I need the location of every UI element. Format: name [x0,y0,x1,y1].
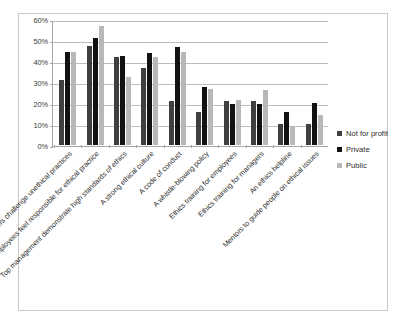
bar [59,80,64,145]
chart-figure: 60%50%40%30%20%10%0% Managers challenge … [0,0,406,328]
bar [93,38,98,145]
y-tickmark [50,42,53,43]
bar [290,127,295,145]
bar [141,68,146,145]
y-axis-labels: 60%50%40%30%20%10%0% [19,21,50,147]
legend-item: Not for profit [337,129,393,138]
bar [306,124,311,145]
y-tick-label: 60% [34,17,49,25]
bar [224,101,229,145]
bar [71,52,76,145]
bar [126,77,131,145]
bar [114,57,119,145]
plot-area [52,21,328,147]
bar [87,46,92,145]
bar-group [273,21,300,145]
y-tick-label: 10% [34,122,49,130]
bar [99,26,104,145]
bar-group [81,21,108,145]
bar [318,115,323,145]
y-tick-label: 40% [34,59,49,67]
bar-group [301,21,328,145]
y-tick-label: 30% [34,80,49,88]
legend-swatch-icon [337,147,342,152]
plot-wrapper: 60%50%40%30%20%10%0% Managers challenge … [19,14,389,312]
bar-group [109,21,136,145]
legend-label: Public [346,161,367,170]
bar-group [54,21,81,145]
bar [120,56,125,145]
bar-group [164,21,191,145]
legend-label: Private [346,145,370,154]
bar [208,89,213,145]
bar [278,124,283,145]
legend-label: Not for profit [346,129,388,138]
y-tickmark [50,105,53,106]
y-tick-label: 20% [34,101,49,109]
y-tickmark [50,63,53,64]
bar [181,52,186,145]
legend-item: Private [337,145,393,154]
y-tickmark [50,126,53,127]
bar [202,87,207,145]
bar [230,104,235,145]
legend-swatch-icon [337,131,342,136]
bar-group [246,21,273,145]
legend-item: Public [337,161,393,170]
y-tick-label: 50% [34,38,49,46]
bar [169,101,174,145]
chart-frame: 60%50%40%30%20%10%0% Managers challenge … [18,13,388,311]
bar [147,53,152,145]
bar [251,101,256,145]
bar-group [191,21,218,145]
bar-group [136,21,163,145]
bar [153,57,158,145]
bar-group [218,21,245,145]
bar [312,103,317,145]
bar [175,47,180,145]
bar [284,112,289,145]
bar-groups [54,21,328,145]
bar [263,90,268,145]
y-tickmark [50,21,53,22]
chart-legend: Not for profitPrivatePublic [337,129,393,177]
bar [65,52,70,145]
bar [236,100,241,145]
y-tick-label: 0% [38,143,48,151]
bar [257,104,262,145]
bar [196,112,201,145]
legend-swatch-icon [337,163,342,168]
y-tickmark [50,84,53,85]
x-axis-category-labels: Managers challenge unethical practicesEm… [52,148,342,308]
